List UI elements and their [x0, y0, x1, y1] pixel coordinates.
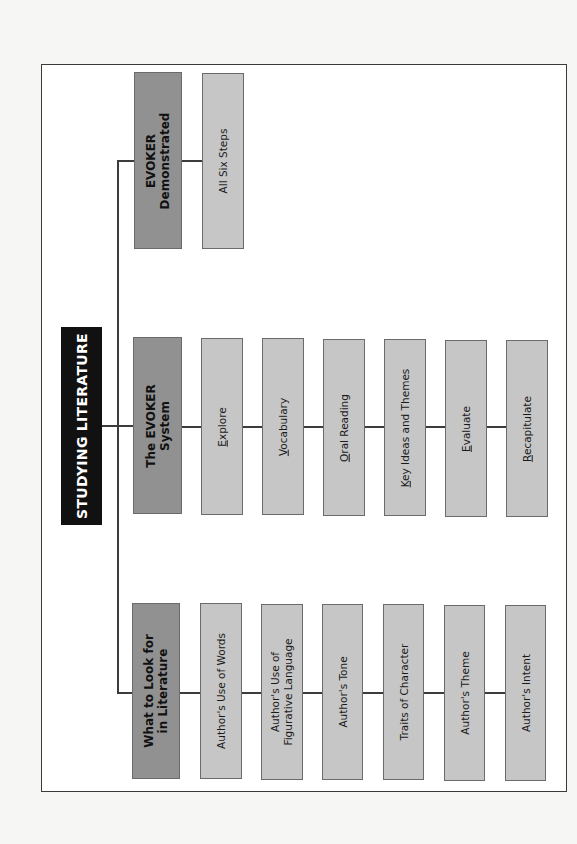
node-label: All Six Steps: [217, 129, 230, 194]
node-recapitulate: Recapitulate: [506, 340, 548, 517]
node-authors-tone: Author's Tone: [322, 604, 363, 780]
heading-line2: in Literature: [156, 634, 170, 748]
heading-line1: EVOKER: [144, 112, 158, 209]
heading-line1: What to Look for: [142, 634, 156, 748]
node-all-six-steps: All Six Steps: [202, 73, 244, 249]
connector-trunk-to-look-for: [117, 692, 133, 694]
node-vocabulary: Vocabulary: [262, 338, 304, 515]
node-initial: R: [521, 455, 533, 462]
heading-line2: System: [158, 384, 172, 467]
node-rest: xplore: [216, 407, 228, 440]
diagram-frame: [41, 64, 567, 792]
title-text: STUDYING LITERATURE: [73, 333, 90, 519]
trunk-vertical-line: [117, 160, 119, 693]
title-box: STUDYING LITERATURE: [61, 327, 102, 525]
node-label: Author's Intent: [519, 654, 532, 732]
node-evaluate: Evaluate: [445, 340, 487, 517]
node-authors-intent: Author's Intent: [505, 605, 546, 781]
node-rest: ey Ideas and Themes: [399, 368, 411, 480]
node-label: Traits of Character: [397, 644, 410, 741]
node-label: Author's Theme: [458, 651, 471, 734]
node-label-line1: Author's Use of: [269, 638, 282, 745]
node-traits-of-character: Traits of Character: [383, 604, 424, 780]
node-label: Author's Tone: [336, 656, 349, 727]
heading-line2: Demonstrated: [158, 112, 172, 209]
connector-trunk-to-system: [117, 425, 133, 427]
node-authors-theme: Author's Theme: [444, 605, 485, 781]
connector-title-to-trunk: [102, 425, 118, 427]
node-initial: K: [399, 480, 411, 486]
node-initial: V: [277, 449, 289, 455]
node-initial: E: [216, 440, 228, 447]
heading-what-to-look-for: What to Look for in Literature: [132, 603, 180, 779]
node-initial: O: [338, 453, 350, 461]
node-label-line2: Figurative Language: [282, 638, 295, 745]
heading-evoker-system: The EVOKER System: [133, 337, 182, 514]
node-explore: Explore: [201, 338, 243, 515]
row1-connector: [182, 160, 202, 162]
heading-line1: The EVOKER: [143, 384, 157, 467]
node-rest: ocabulary: [277, 397, 289, 449]
node-authors-use-of-figurative-language: Author's Use of Figurative Language: [261, 604, 303, 780]
node-label: Author's Use of Words: [215, 633, 228, 749]
connector-trunk-to-demonstrated: [117, 160, 134, 162]
node-oral-reading: Oral Reading: [323, 339, 365, 516]
node-authors-use-of-words: Author's Use of Words: [200, 603, 242, 779]
heading-evoker-demonstrated: EVOKER Demonstrated: [134, 72, 182, 249]
node-rest: ral Reading: [338, 394, 350, 454]
node-initial: E: [460, 445, 472, 452]
node-key-ideas-and-themes: Key Ideas and Themes: [384, 339, 426, 516]
node-rest: ecapitulate: [521, 396, 533, 455]
node-rest: valuate: [460, 406, 472, 445]
